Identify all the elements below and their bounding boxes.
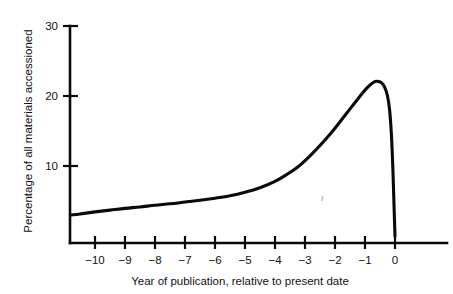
chart-figure: 30 20 10 −10 −9 −8 −7 −6 −5 −4 −3	[0, 0, 453, 294]
x-tick-labels: −10 −9 −8 −7 −6 −5 −4 −3 −2 −1 0	[85, 254, 398, 266]
data-series-line	[71, 81, 395, 236]
y-tick-labels: 30 20 10	[45, 20, 58, 172]
y-axis-title: Percentage of all materials accessioned	[22, 29, 34, 232]
x-tick-label: 0	[392, 254, 398, 266]
x-tick-label: −4	[268, 254, 282, 266]
x-tick-label: −1	[358, 254, 371, 266]
x-tick-label: −9	[118, 254, 131, 266]
x-axis-title: Year of publication, relative to present…	[131, 275, 349, 287]
x-tick-label: −7	[178, 254, 191, 266]
chart-canvas: 30 20 10 −10 −9 −8 −7 −6 −5 −4 −3	[0, 0, 453, 294]
y-tick-label: 10	[45, 160, 58, 172]
y-tick-label: 30	[45, 20, 58, 32]
x-tick-label: −2	[328, 254, 341, 266]
x-tick-label: −10	[85, 254, 105, 266]
x-tick-label: −8	[148, 254, 161, 266]
x-tick-label: −5	[238, 254, 251, 266]
y-tick-label: 20	[45, 90, 58, 102]
x-tick-label: −6	[208, 254, 221, 266]
x-tick-label: −3	[298, 254, 311, 266]
paper-speck	[321, 196, 324, 201]
